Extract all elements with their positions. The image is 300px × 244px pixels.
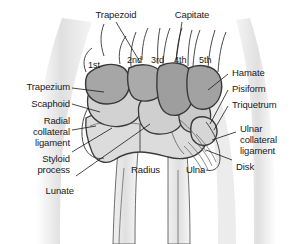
- bone-hamate: [187, 66, 222, 110]
- label-lunate: Lunate: [0, 186, 74, 197]
- label-styloid-process-line2: process: [0, 165, 70, 176]
- label-ulna: Ulna: [186, 165, 205, 176]
- label-radial-collateral-ligament-line3: ligament: [0, 138, 70, 149]
- label-radius: Radius: [131, 165, 160, 176]
- label-trapezoid: Trapezoid: [70, 10, 162, 21]
- bone-trapezium: [85, 64, 129, 104]
- label-disk: Disk: [236, 162, 254, 173]
- label-radial-collateral-ligament-line2: collateral: [0, 127, 70, 138]
- label-hamate: Hamate: [232, 68, 265, 79]
- label-capitate: Capitate: [152, 10, 232, 21]
- wrist-anatomy-figure: Trapezoid Capitate 1st 2nd 3rd 4th 5th T…: [0, 0, 300, 244]
- label-triquetrum: Triquetrum: [232, 100, 277, 111]
- label-metacarpal-4: 4th: [174, 55, 187, 65]
- label-metacarpal-3: 3rd: [151, 55, 164, 65]
- label-ulnar-collateral-ligament-line1: Ulnar: [240, 124, 262, 135]
- label-styloid-process-line1: Styloid: [0, 154, 70, 165]
- label-scaphoid: Scaphoid: [0, 99, 70, 110]
- label-trapezium: Trapezium: [0, 82, 70, 93]
- label-radial-collateral-ligament-line1: Radial: [0, 116, 70, 127]
- label-metacarpal-5: 5th: [199, 55, 212, 65]
- label-pisiform: Pisiform: [232, 84, 266, 95]
- label-ulnar-collateral-ligament-line2: collateral: [240, 135, 277, 146]
- label-ulnar-collateral-ligament-line3: ligament: [240, 146, 275, 157]
- label-metacarpal-1: 1st: [88, 60, 100, 70]
- label-metacarpal-2: 2nd: [127, 55, 142, 65]
